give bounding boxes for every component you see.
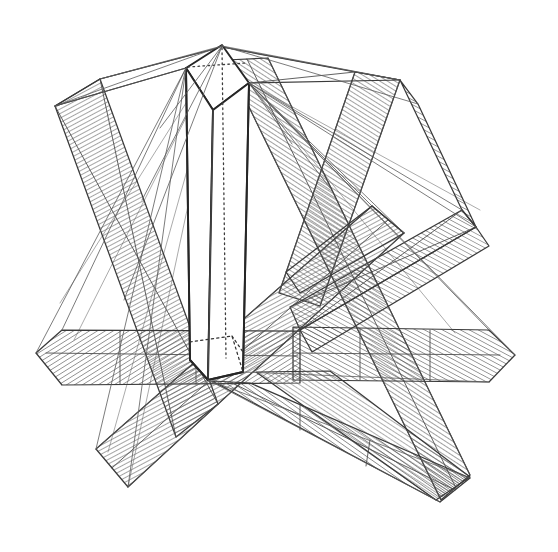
technical-drawing-figure xyxy=(0,0,558,552)
figure-canvas xyxy=(0,0,558,552)
central-triangular-prism xyxy=(186,45,249,380)
